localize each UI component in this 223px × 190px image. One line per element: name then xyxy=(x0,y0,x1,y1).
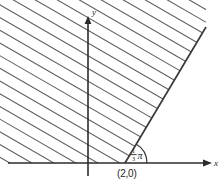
hatch-line xyxy=(0,0,223,181)
y-axis-label: y xyxy=(91,7,96,17)
figure-container: y x (2,0) 1 3 π xyxy=(0,0,223,190)
hatch-line xyxy=(0,47,223,190)
angle-label-pi-symbol: π xyxy=(138,150,144,161)
x-axis-label: x xyxy=(213,158,218,168)
region-diagram: y x (2,0) 1 3 π xyxy=(0,0,223,190)
vertex-point-label: (2,0) xyxy=(117,168,137,179)
x-axis-arrowhead xyxy=(203,159,212,166)
hatch-line xyxy=(0,0,223,143)
hatch-line xyxy=(0,0,223,153)
hatch-line xyxy=(0,0,223,190)
angle-label: 1 3 π xyxy=(131,147,144,162)
y-axis-arrowhead xyxy=(85,16,92,24)
angle-label-numerator: 1 xyxy=(132,147,135,154)
shaded-region-hatching xyxy=(0,0,223,190)
hatch-line xyxy=(0,28,223,190)
angle-label-denominator: 3 xyxy=(132,155,135,162)
boundary-ray xyxy=(125,27,206,163)
